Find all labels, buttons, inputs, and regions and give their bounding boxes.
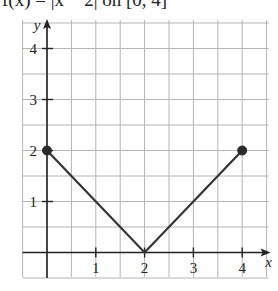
y-tick-label: 1 (30, 194, 38, 210)
grid-lines (23, 20, 269, 278)
axes (23, 19, 271, 278)
y-axis-label: y (32, 17, 41, 33)
endpoint-dot (43, 146, 52, 155)
axis-labels: 12341234xy (30, 17, 273, 276)
y-tick-label: 2 (30, 143, 38, 159)
x-tick-label: 3 (190, 260, 198, 276)
function-graph: 12341234xy (0, 0, 278, 291)
endpoint-dot (238, 146, 247, 155)
x-tick-label: 4 (238, 260, 246, 276)
x-tick-label: 1 (92, 260, 100, 276)
x-axis-label: x (264, 254, 272, 270)
y-tick-label: 4 (30, 41, 38, 57)
y-tick-label: 3 (30, 92, 38, 108)
x-tick-label: 2 (141, 260, 149, 276)
axis-ticks (42, 49, 242, 258)
